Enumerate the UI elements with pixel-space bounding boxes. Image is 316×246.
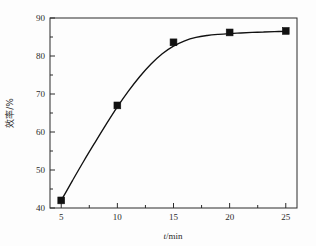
x-tick-label: 20	[225, 212, 235, 222]
y-axis-title: 效率/%	[4, 98, 15, 128]
y-tick-label: 40	[36, 203, 46, 213]
data-point	[58, 197, 65, 204]
x-tick-label: 5	[59, 212, 64, 222]
chart-figure: 405060708090 510152025 t/min 效率/%	[0, 0, 316, 246]
efficiency-vs-time-chart: 405060708090 510152025 t/min 效率/%	[0, 0, 316, 246]
x-tick-label: 25	[281, 212, 291, 222]
chart-background	[0, 0, 316, 246]
data-point	[170, 39, 177, 46]
x-axis-title: t/min	[163, 231, 183, 241]
x-tick-label: 15	[169, 212, 179, 222]
y-tick-label: 70	[36, 89, 46, 99]
x-tick-label: 10	[113, 212, 123, 222]
data-point	[114, 102, 121, 109]
data-point	[282, 28, 289, 35]
y-tick-label: 60	[36, 127, 46, 137]
y-tick-label: 80	[36, 51, 46, 61]
y-tick-label: 90	[36, 13, 46, 23]
data-point	[226, 29, 233, 36]
y-tick-label: 50	[36, 165, 46, 175]
